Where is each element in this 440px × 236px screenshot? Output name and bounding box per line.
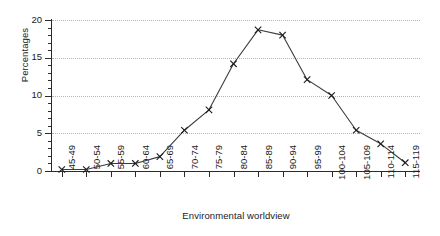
data-point-100-104 [328,92,334,98]
chart-container: Percentages Environmental worldview 0510… [0,0,440,236]
data-point-110-114 [378,141,384,147]
data-point-70-74 [181,127,187,133]
data-point-95-99 [304,76,310,82]
data-series-line [0,0,440,236]
data-point-115-119 [402,159,408,165]
data-point-80-84 [230,61,236,67]
data-point-65-69 [157,153,163,159]
data-point-75-79 [206,107,212,113]
data-point-105-109 [353,127,359,133]
